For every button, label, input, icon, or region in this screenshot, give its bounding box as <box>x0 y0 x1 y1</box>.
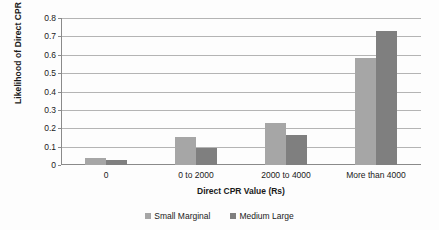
legend-entry[interactable]: Medium Large <box>230 211 293 221</box>
bar[interactable] <box>376 31 397 165</box>
bar-group <box>355 18 397 165</box>
y-axis-tickmark <box>58 128 61 129</box>
y-axis-tick-label: 0.2 <box>30 123 56 133</box>
x-axis-tick-label: More than 4000 <box>331 170 421 180</box>
plot-area <box>61 18 421 165</box>
bar-group <box>265 18 307 165</box>
bar[interactable] <box>106 160 127 165</box>
bar-chart-figure: Likelihood of Direct CPR value states 00… <box>0 0 439 230</box>
y-axis-tickmark <box>58 147 61 148</box>
y-axis-tick-label: 0 <box>30 160 56 170</box>
y-axis-tick-label: 0.1 <box>30 142 56 152</box>
chart-legend: Small MarginalMedium Large <box>0 211 439 221</box>
x-axis-title: Direct CPR Value (Rs) <box>61 186 421 196</box>
bars-layer <box>61 18 421 165</box>
bar[interactable] <box>175 137 196 165</box>
y-axis-tickmark <box>58 92 61 93</box>
x-axis-tick-label-group: 00 to 20002000 to 4000More than 4000 <box>61 170 421 184</box>
x-axis-tick-label: 2000 to 4000 <box>241 170 331 180</box>
y-axis-tickmark <box>58 73 61 74</box>
bar[interactable] <box>286 135 307 165</box>
y-axis-tickmark <box>58 18 61 19</box>
y-axis-tick-label: 0.7 <box>30 31 56 41</box>
y-axis-tick-label-group: 00.10.20.30.40.50.60.70.8 <box>30 13 56 165</box>
y-axis-tick-label: 0.8 <box>30 13 56 23</box>
y-axis-tick-label: 0.6 <box>30 50 56 60</box>
y-axis-tickmark <box>58 36 61 37</box>
x-axis-tick-label: 0 <box>61 170 151 180</box>
legend-entry[interactable]: Small Marginal <box>145 211 210 221</box>
bar[interactable] <box>196 148 217 165</box>
y-axis-tick-label: 0.4 <box>30 87 56 97</box>
y-axis-title: Likelihood of Direct CPR value states <box>13 0 27 104</box>
bar[interactable] <box>265 123 286 165</box>
legend-swatch-icon <box>230 213 236 219</box>
legend-label: Medium Large <box>239 211 293 221</box>
y-axis-tick-label: 0.5 <box>30 68 56 78</box>
bar-group <box>85 18 127 165</box>
y-axis-tickmark <box>58 110 61 111</box>
x-axis-tick-label: 0 to 2000 <box>151 170 241 180</box>
y-axis-tickmark <box>58 165 61 166</box>
bar[interactable] <box>85 158 106 165</box>
legend-swatch-icon <box>145 213 151 219</box>
bar[interactable] <box>355 58 376 165</box>
legend-label: Small Marginal <box>154 211 210 221</box>
bar-group <box>175 18 217 165</box>
y-axis-tick-label: 0.3 <box>30 105 56 115</box>
y-axis-tickmark <box>58 55 61 56</box>
